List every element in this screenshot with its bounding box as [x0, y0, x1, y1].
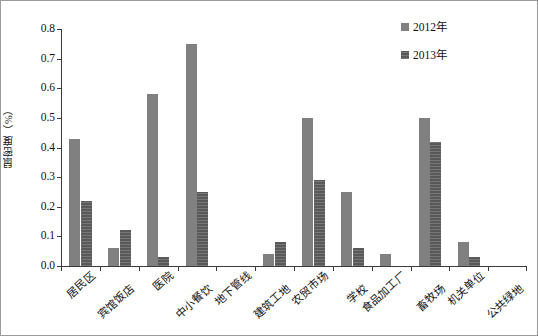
y-axis-tick-label: 0.0 — [41, 260, 55, 272]
y-axis-tick-mark — [57, 236, 61, 237]
legend-label: 2013年 — [413, 49, 447, 61]
legend-item[interactable]: 2013年 — [401, 49, 521, 61]
x-axis-category-label: 地下管线 — [212, 269, 253, 307]
bar-1 — [430, 142, 441, 266]
x-axis-category-label: 农贸市场 — [290, 269, 331, 307]
x-axis-category-label: 机关单位 — [445, 269, 486, 307]
x-axis-category-labels: 居民区宾馆饭店医院中小餐饮地下管线建筑工地农贸市场学校食品加工厂畜牧场机关单位公… — [61, 269, 527, 336]
bar-0 — [419, 118, 430, 266]
y-axis-tick-labels: 0.00.10.20.30.40.50.60.70.8 — [19, 1, 55, 336]
y-axis-tick-label: 0.6 — [41, 82, 55, 94]
y-axis-tick-label: 0.4 — [41, 142, 55, 154]
bar-0 — [380, 254, 391, 266]
bar-1 — [314, 180, 325, 266]
bar-0 — [302, 118, 313, 266]
x-axis-category-label: 畜牧场 — [414, 282, 447, 313]
bar-0 — [263, 254, 274, 266]
bar-0 — [108, 248, 119, 266]
y-axis-tick-mark — [57, 88, 61, 89]
x-axis-category-label: 中小餐饮 — [173, 282, 214, 320]
legend-item[interactable]: 2012年 — [401, 21, 521, 33]
y-axis-tick-label: 0.5 — [41, 112, 55, 124]
y-axis-tick-mark — [57, 118, 61, 119]
y-axis-tick-label: 0.3 — [41, 171, 55, 183]
x-axis-category-label: 建筑工地 — [251, 282, 292, 320]
bar-0 — [341, 192, 352, 266]
bar-0 — [186, 44, 197, 266]
x-axis-category-label: 宾馆饭店 — [96, 282, 137, 320]
y-axis-tick-label: 0.2 — [41, 201, 55, 213]
bar-chart: 鼠密度（%） 0.00.10.20.30.40.50.60.70.8 居民区宾馆… — [0, 0, 538, 336]
legend-swatch-icon — [401, 23, 409, 31]
y-axis-tick-mark — [57, 148, 61, 149]
bar-1 — [275, 242, 286, 266]
chart-legend: 2012年2013年 — [401, 21, 521, 77]
bar-1 — [197, 192, 208, 266]
y-axis-title: 鼠密度（%） — [3, 61, 19, 211]
x-axis-category-label: 医院 — [151, 269, 175, 293]
bar-1 — [469, 257, 480, 266]
bar-0 — [69, 139, 80, 266]
bar-1 — [81, 201, 92, 266]
legend-label: 2012年 — [413, 21, 447, 33]
bar-1 — [158, 257, 169, 266]
x-axis-category-label: 居民区 — [65, 269, 98, 300]
x-axis-category-label: 公共绿地 — [484, 282, 525, 320]
y-axis-tick-mark — [57, 177, 61, 178]
bar-1 — [353, 248, 364, 266]
y-axis-tick-label: 0.1 — [41, 230, 55, 242]
y-axis-tick-label: 0.7 — [41, 53, 55, 65]
y-axis-tick-mark — [57, 29, 61, 30]
y-axis-tick-mark — [57, 207, 61, 208]
y-axis-tick-mark — [57, 59, 61, 60]
bar-0 — [458, 242, 469, 266]
bar-0 — [147, 94, 158, 266]
y-axis-tick-label: 0.8 — [41, 23, 55, 35]
legend-swatch-icon — [401, 51, 409, 59]
bar-1 — [120, 230, 131, 266]
